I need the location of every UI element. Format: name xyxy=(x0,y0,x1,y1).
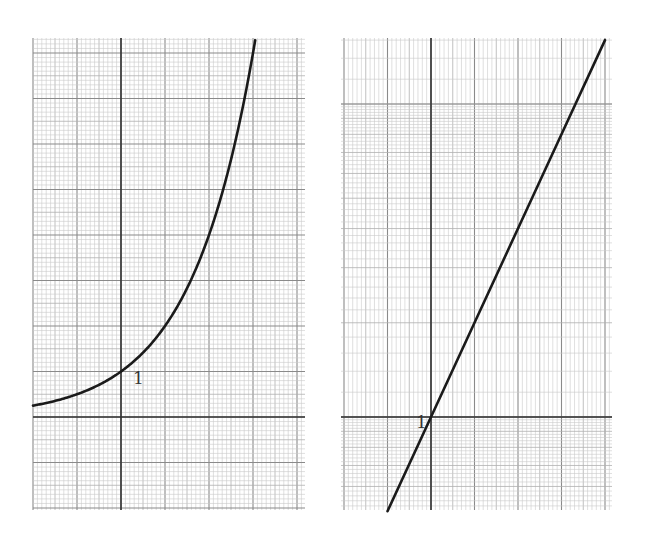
semilog-chart: 1 xyxy=(341,38,612,511)
exponential-curve xyxy=(33,40,255,405)
linear-axes xyxy=(33,38,305,510)
linear-chart: 1 xyxy=(33,38,305,510)
chart-canvas: 1 1 xyxy=(0,0,645,543)
semilog-annotation-1: 1 xyxy=(416,412,427,432)
semilog-axes xyxy=(341,38,612,510)
linear-annotation-1: 1 xyxy=(133,368,144,388)
linear-grid xyxy=(33,38,305,510)
semilog-grid xyxy=(341,38,612,510)
